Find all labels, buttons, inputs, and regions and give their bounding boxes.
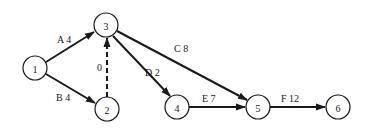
node-4: 4	[165, 95, 189, 119]
node-6: 6	[326, 95, 350, 119]
node-2: 2	[95, 97, 119, 121]
network-diagram: A 4 B 4 0 C 8 D 2 E 7 F 12 1 2 3 4 5	[0, 0, 370, 132]
node-6-label: 6	[336, 103, 341, 114]
node-1-label: 1	[33, 64, 38, 75]
edge-labels: A 4 B 4 0 C 8 D 2 E 7 F 12	[56, 34, 299, 104]
node-3-label: 3	[104, 21, 109, 32]
edge-label-e: E 7	[202, 93, 216, 104]
edge-label-a: A 4	[57, 34, 71, 45]
edge-label-d: D 2	[145, 67, 160, 78]
edge-c-3-to-5	[117, 31, 247, 100]
node-4-label: 4	[175, 103, 180, 114]
node-3: 3	[94, 13, 118, 37]
edge-label-dummy: 0	[97, 62, 102, 73]
node-5-label: 5	[256, 103, 261, 114]
edge-label-b: B 4	[56, 92, 70, 103]
edge-label-c: C 8	[174, 43, 188, 54]
node-1: 1	[23, 56, 47, 80]
edge-b-1-to-2	[46, 74, 95, 103]
node-5: 5	[246, 95, 270, 119]
edge-label-f: F 12	[281, 93, 299, 104]
node-2-label: 2	[105, 105, 110, 116]
